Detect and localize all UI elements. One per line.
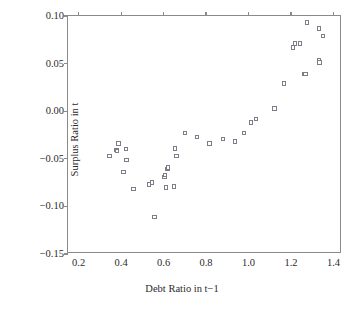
x-axis-tick-mark xyxy=(333,12,334,16)
data-point xyxy=(150,180,154,184)
x-axis-tick-label: 1.0 xyxy=(242,258,255,269)
data-point xyxy=(298,41,302,45)
data-point xyxy=(124,147,128,151)
x-axis-tick-mark xyxy=(248,12,249,16)
data-point xyxy=(282,81,286,85)
y-axis-tick-label: −0.10 xyxy=(40,201,64,212)
x-axis-label: Debt Ratio in t−1 xyxy=(0,283,364,294)
data-point xyxy=(116,141,120,145)
y-axis-tick-label: −0.15 xyxy=(40,249,64,260)
data-point xyxy=(172,184,176,188)
data-point xyxy=(121,170,125,174)
y-axis-tick-mark xyxy=(64,63,68,64)
data-point xyxy=(291,45,295,49)
x-axis-tick-label: 0.8 xyxy=(199,258,212,269)
x-axis-tick-label: 0.4 xyxy=(115,258,128,269)
scatter-chart-figure: 0.100.050.00−0.05−0.10−0.150.20.40.60.81… xyxy=(0,0,364,311)
data-point xyxy=(131,187,135,191)
y-axis-tick-mark xyxy=(64,158,68,159)
y-axis-tick-mark xyxy=(64,253,68,254)
data-point xyxy=(173,146,177,150)
data-point xyxy=(254,117,258,121)
data-point xyxy=(221,137,225,141)
x-axis-tick-label: 0.6 xyxy=(157,258,170,269)
x-axis-tick-mark xyxy=(205,12,206,16)
x-axis-tick-mark xyxy=(163,12,164,16)
data-point xyxy=(233,139,237,143)
data-point xyxy=(152,215,156,219)
data-point xyxy=(174,154,178,158)
data-point xyxy=(272,106,276,110)
x-axis-tick-label: 1.4 xyxy=(327,258,340,269)
plot-area: 0.100.050.00−0.05−0.10−0.150.20.40.60.81… xyxy=(67,15,341,253)
data-point xyxy=(242,131,246,135)
data-point xyxy=(163,173,167,177)
data-point xyxy=(321,34,325,38)
data-point xyxy=(303,72,307,76)
data-point xyxy=(207,141,211,145)
data-point xyxy=(305,20,309,24)
y-axis-tick-label: −0.05 xyxy=(40,154,64,165)
y-axis-label: Surplus Ratio in t xyxy=(69,60,80,220)
x-axis-tick-mark xyxy=(290,12,291,16)
x-axis-tick-label: 0.2 xyxy=(72,258,85,269)
data-point xyxy=(195,135,199,139)
data-point xyxy=(183,131,187,135)
x-axis-tick-mark xyxy=(78,12,79,16)
data-point xyxy=(317,60,321,64)
y-axis-tick-mark xyxy=(64,206,68,207)
x-axis-tick-label: 1.2 xyxy=(284,258,297,269)
data-point xyxy=(293,41,297,45)
data-point xyxy=(317,26,321,30)
y-axis-tick-label: 0.05 xyxy=(46,58,64,69)
y-axis-tick-label: 0.10 xyxy=(46,11,64,22)
x-axis-tick-mark xyxy=(121,12,122,16)
data-point xyxy=(107,154,111,158)
y-axis-tick-label: 0.00 xyxy=(46,106,64,117)
data-point xyxy=(249,120,253,124)
data-point xyxy=(166,165,170,169)
data-point xyxy=(164,185,168,189)
y-axis-tick-mark xyxy=(64,15,68,16)
data-point xyxy=(124,158,128,162)
y-axis-tick-mark xyxy=(64,111,68,112)
data-point xyxy=(115,149,119,153)
